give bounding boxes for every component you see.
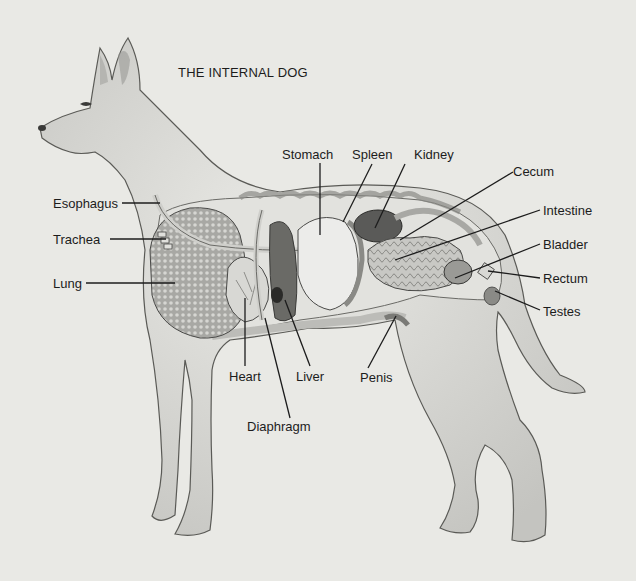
label-penis: Penis — [360, 371, 393, 384]
label-bladder: Bladder — [543, 238, 588, 251]
liver-organ — [270, 222, 297, 321]
bladder-organ — [444, 260, 472, 284]
label-rectum: Rectum — [543, 272, 588, 285]
testes-organ — [484, 287, 500, 305]
label-heart: Heart — [229, 370, 261, 383]
anatomy-diagram: THE INTERNAL DOG Stomach Spleen Kidney C… — [0, 0, 636, 581]
label-kidney: Kidney — [414, 148, 454, 161]
dog-illustration — [0, 0, 636, 581]
label-testes: Testes — [543, 305, 581, 318]
label-trachea: Trachea — [53, 233, 100, 246]
label-lung: Lung — [53, 277, 82, 290]
label-diaphragm: Diaphragm — [247, 420, 311, 433]
label-spleen: Spleen — [352, 148, 392, 161]
label-liver: Liver — [296, 370, 324, 383]
label-stomach: Stomach — [282, 148, 333, 161]
label-intestine: Intestine — [543, 204, 592, 217]
label-cecum: Cecum — [513, 165, 554, 178]
stomach-organ — [298, 218, 358, 311]
diagram-title: THE INTERNAL DOG — [178, 65, 308, 80]
label-esophagus: Esophagus — [53, 197, 118, 210]
